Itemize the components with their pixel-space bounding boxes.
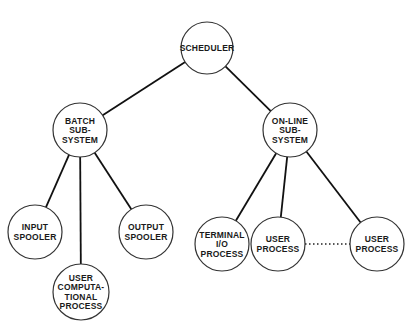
node-label: USER xyxy=(365,234,389,244)
node-label: SPOOLER xyxy=(14,232,57,242)
node-usercomp: USERCOMPUTA-TIONALPROCESS xyxy=(53,264,109,320)
node-label: PROCESS xyxy=(201,249,244,259)
node-label: USER xyxy=(69,273,93,283)
node-label: USER xyxy=(266,234,290,244)
edge-batch-usercomp xyxy=(80,157,81,264)
node-label: ON-LINE xyxy=(272,116,308,126)
nodes: SCHEDULERBATCHSUB-SYSTEMON-LINESUB-SYSTE… xyxy=(8,22,404,320)
node-label: COMPUTA- xyxy=(58,282,105,292)
edge-online-user1 xyxy=(281,157,287,217)
node-label: SCHEDULER xyxy=(180,43,235,53)
process-hierarchy-diagram: SCHEDULERBATCHSUB-SYSTEMON-LINESUB-SYSTE… xyxy=(0,0,419,321)
edge-batch-output xyxy=(95,153,132,210)
node-output: OUTPUTSPOOLER xyxy=(119,205,173,259)
node-input: INPUTSPOOLER xyxy=(8,205,62,259)
node-user1: USERPROCESS xyxy=(251,217,305,271)
node-label: PROCESS xyxy=(60,301,103,311)
node-label: PROCESS xyxy=(356,244,399,254)
node-online: ON-LINESUB-SYSTEM xyxy=(263,103,317,157)
node-label: I/O xyxy=(216,239,228,249)
node-label: SPOOLER xyxy=(125,232,168,242)
node-label: OUTPUT xyxy=(128,222,165,232)
edge-online-user2 xyxy=(306,151,360,222)
edge-batch-input xyxy=(46,155,69,208)
node-label: TERMINAL xyxy=(199,230,245,240)
node-label: TIONAL xyxy=(65,292,98,302)
node-terminal: TERMINALI/OPROCESS xyxy=(195,217,249,271)
node-label: PROCESS xyxy=(257,244,300,254)
node-label: SUB- xyxy=(69,125,91,135)
edge-scheduler-online xyxy=(225,66,270,111)
node-label: SYSTEM xyxy=(272,135,308,145)
node-label: SYSTEM xyxy=(62,135,98,145)
node-label: INPUT xyxy=(22,222,49,232)
node-label: BATCH xyxy=(65,116,95,126)
edge-online-terminal xyxy=(236,153,276,221)
node-label: SUB- xyxy=(279,125,301,135)
node-user2: USERPROCESS xyxy=(350,217,404,271)
node-batch: BATCHSUB-SYSTEM xyxy=(53,103,107,157)
node-scheduler: SCHEDULER xyxy=(180,22,235,74)
edge-scheduler-batch xyxy=(103,62,185,115)
